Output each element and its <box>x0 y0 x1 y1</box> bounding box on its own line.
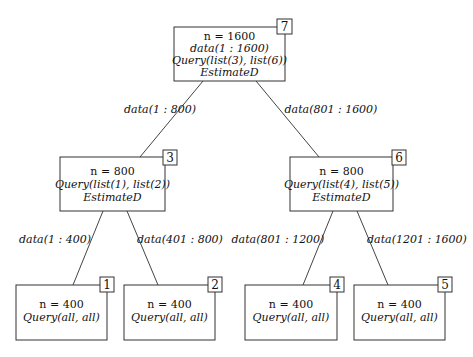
node-line: n = 400 <box>269 298 313 311</box>
node-id: 3 <box>166 151 174 165</box>
node-line: Query(all, all) <box>23 311 100 324</box>
node-5: 5 n = 400 Query(all, all) <box>354 277 452 340</box>
edge-3-2 <box>127 211 158 285</box>
node-line: Query(list(1), list(2)) <box>55 178 170 191</box>
node-4: 4 n = 400 Query(all, all) <box>245 277 344 340</box>
node-id: 5 <box>441 278 449 292</box>
node-line: EstimateD <box>199 66 259 79</box>
node-6: 6 n = 800 Query(list(4), list(5)) Estima… <box>284 150 406 211</box>
node-id: 6 <box>395 151 403 165</box>
node-line: Query(list(4), list(5)) <box>284 178 399 191</box>
node-line: EstimateD <box>311 191 371 204</box>
node-line: n = 400 <box>377 298 421 311</box>
node-2: 2 n = 400 Query(all, all) <box>124 277 222 340</box>
node-line: n = 400 <box>147 298 191 311</box>
node-line: Query(all, all) <box>131 311 208 324</box>
edge-6-5 <box>357 211 388 285</box>
edge-7-6 <box>256 81 319 157</box>
node-line: n = 800 <box>319 165 363 178</box>
edge-6-4 <box>303 211 333 285</box>
edge-label-6-5: data(1201 : 1600) <box>367 233 467 246</box>
tree-diagram: data(1 : 800) data(801 : 1600) data(1 : … <box>0 0 473 357</box>
edge-3-1 <box>73 211 103 285</box>
node-line: Query(all, all) <box>253 311 330 324</box>
edge-label-3-1: data(1 : 400) <box>19 233 91 246</box>
node-line: Query(all, all) <box>361 311 438 324</box>
node-7: 7 n = 1600 data(1 : 1600) Query(list(3),… <box>172 19 292 81</box>
edge-label-3-2: data(401 : 800) <box>137 233 223 246</box>
node-id: 4 <box>333 278 341 292</box>
node-line: n = 800 <box>90 165 134 178</box>
edge-label-7-6: data(801 : 1600) <box>285 103 378 116</box>
node-id: 1 <box>103 278 111 292</box>
edge-7-3 <box>140 81 203 157</box>
edge-label-6-4: data(801 : 1200) <box>232 233 325 246</box>
node-line: EstimateD <box>82 191 142 204</box>
edge-label-7-3: data(1 : 800) <box>124 103 196 116</box>
node-id: 2 <box>211 278 219 292</box>
node-id: 7 <box>281 20 289 34</box>
node-line: n = 400 <box>39 298 83 311</box>
node-3: 3 n = 800 Query(list(1), list(2)) Estima… <box>55 150 177 211</box>
node-1: 1 n = 400 Query(all, all) <box>16 277 114 340</box>
